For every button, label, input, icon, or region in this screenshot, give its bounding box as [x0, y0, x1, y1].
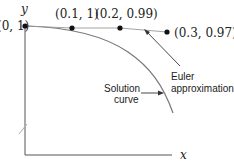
label-point-0.1-1: (0.1, 1) — [55, 7, 99, 21]
point-0.3-0.97 — [164, 29, 169, 34]
diagram-svg: (0, 1) (0.1, 1) (0.2, 0.99) (0.3, 0.97) … — [0, 0, 234, 165]
point-0.2-0.99 — [117, 25, 122, 30]
axis-break-mark — [19, 124, 27, 134]
point-0.1-1 — [69, 25, 74, 30]
label-point-0.2-0.99: (0.2, 0.99) — [95, 7, 158, 21]
solution-annotation-line2: curve — [114, 94, 139, 105]
solution-annotation-line1: Solution — [104, 83, 140, 94]
label-point-0-1: (0, 1) — [0, 19, 29, 33]
label-point-0.3-0.97: (0.3, 0.97) — [174, 26, 234, 40]
y-axis-label: y — [20, 2, 28, 16]
euler-annotation-line2: approximation — [171, 83, 234, 94]
euler-annotation-line1: Euler — [171, 71, 195, 82]
solution-curve — [25, 26, 173, 113]
euler-method-diagram: (0, 1) (0.1, 1) (0.2, 0.99) (0.3, 0.97) … — [0, 0, 234, 165]
x-axis-label: x — [180, 148, 187, 162]
